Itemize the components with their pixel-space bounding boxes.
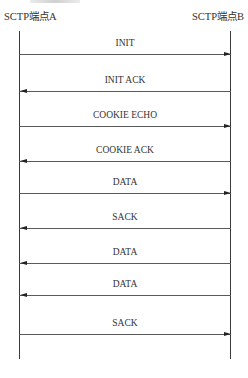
message-label: COOKIE ACK xyxy=(19,144,231,156)
arrowhead-icon xyxy=(20,226,27,230)
arrowhead-icon xyxy=(224,124,231,128)
message-arrow: INIT ACK xyxy=(19,91,231,92)
message-arrow: DATA xyxy=(19,193,231,194)
arrowhead-icon xyxy=(20,293,27,297)
message-line xyxy=(19,126,231,127)
message-arrow: SACK xyxy=(19,228,231,229)
message-label: DATA xyxy=(19,176,231,188)
message-line xyxy=(19,295,231,296)
message-label: DATA xyxy=(19,278,231,290)
message-arrow: DATA xyxy=(19,295,231,296)
message-label: INIT ACK xyxy=(19,74,231,86)
arrowhead-icon xyxy=(20,159,27,163)
endpoint-b-label: SCTP端点B xyxy=(192,10,244,24)
message-line xyxy=(19,54,231,55)
cropped-caption-fragment xyxy=(30,0,80,3)
message-line xyxy=(19,161,231,162)
message-arrow: INIT xyxy=(19,54,231,55)
message-arrow: SACK xyxy=(19,334,231,335)
arrowhead-icon xyxy=(20,89,27,93)
message-arrow: COOKIE ECHO xyxy=(19,126,231,127)
message-arrow: DATA xyxy=(19,263,231,264)
message-label: SACK xyxy=(19,317,231,329)
message-line xyxy=(19,263,231,264)
arrowhead-icon xyxy=(224,191,231,195)
message-arrow: COOKIE ACK xyxy=(19,161,231,162)
message-line xyxy=(19,334,231,335)
message-line xyxy=(19,228,231,229)
arrowhead-icon xyxy=(224,332,231,336)
message-label: COOKIE ECHO xyxy=(19,109,231,121)
arrowhead-icon xyxy=(20,261,27,265)
message-label: DATA xyxy=(19,246,231,258)
message-line xyxy=(19,91,231,92)
message-label: INIT xyxy=(19,37,231,49)
endpoint-a-label: SCTP端点A xyxy=(4,10,57,24)
arrowhead-icon xyxy=(224,52,231,56)
message-line xyxy=(19,193,231,194)
message-label: SACK xyxy=(19,211,231,223)
